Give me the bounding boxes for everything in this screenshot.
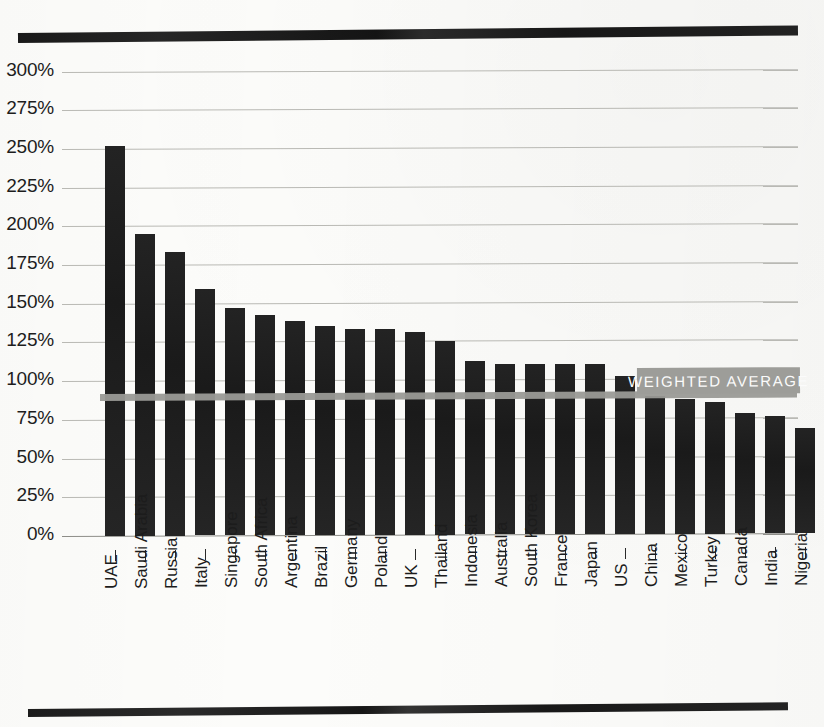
gridline-225	[62, 185, 798, 189]
bar-uk[interactable]	[405, 332, 425, 535]
y-tick-label-175: 175%	[6, 252, 54, 274]
bar-brazil[interactable]	[315, 326, 335, 535]
x-label-singapore: Singapore	[222, 512, 242, 589]
gridline-250	[62, 146, 798, 150]
y-tick-label-125: 125%	[6, 329, 54, 351]
y-axis-tick-labels: 0%25%50%75%100%125%150%175%200%225%250%2…	[0, 0, 58, 727]
gridline-300	[62, 69, 798, 73]
x-label-australia: Australia	[492, 522, 512, 587]
bar-indonesia[interactable]	[465, 361, 485, 534]
bar-canada[interactable]	[735, 413, 755, 534]
x-label-italy: Italy	[192, 558, 212, 589]
bar-chart-figure: 0%25%50%75%100%125%150%175%200%225%250%2…	[0, 0, 824, 727]
bar-nigeria[interactable]	[795, 428, 815, 533]
x-label-argentina: Argentina	[282, 516, 302, 588]
x-label-brazil: Brazil	[312, 546, 332, 588]
x-label-indonesia: Indonesia	[462, 515, 482, 588]
y-tick-label-75: 75%	[17, 407, 54, 429]
x-label-turkey: Turkey	[702, 536, 722, 587]
bar-singapore[interactable]	[225, 308, 245, 536]
x-label-mexico: Mexico	[672, 533, 692, 586]
x-label-nigeria: Nigeria	[792, 533, 812, 586]
bar-italy[interactable]	[195, 289, 215, 535]
x-label-us: US	[612, 563, 632, 586]
x-label-south-korea: South Korea	[522, 494, 542, 587]
x-label-uk: UK	[402, 564, 422, 587]
bar-china[interactable]	[645, 396, 665, 534]
bar-japan[interactable]	[585, 364, 605, 534]
bar-saudi-arabia[interactable]	[135, 234, 155, 536]
bar-uae[interactable]	[105, 146, 125, 536]
gridline-200	[62, 224, 798, 228]
x-label-france: France	[552, 535, 572, 587]
bar-australia[interactable]	[495, 364, 515, 534]
x-label-india: India	[762, 550, 782, 586]
y-tick-label-225: 225%	[6, 175, 54, 197]
y-tick-label-275: 275%	[6, 97, 54, 119]
bar-mexico[interactable]	[675, 399, 695, 534]
y-tick-label-150: 150%	[6, 291, 54, 313]
x-label-south-africa: South Africa	[252, 498, 272, 588]
bar-thailand[interactable]	[435, 341, 455, 535]
x-label-saudi-arabia: Saudi Arabia	[132, 494, 152, 589]
x-tick-uk	[415, 549, 416, 560]
x-tick-us	[625, 548, 626, 559]
y-tick-label-100: 100%	[6, 368, 54, 390]
weighted-average-badge: WEIGHTED AVERAGE	[637, 368, 800, 395]
x-label-uae: UAE	[102, 554, 122, 589]
y-tick-label-200: 200%	[6, 213, 54, 235]
y-tick-label-25: 25%	[17, 484, 54, 506]
x-label-canada: Canada	[732, 527, 752, 586]
bar-germany[interactable]	[345, 329, 365, 535]
y-tick-label-250: 250%	[6, 136, 54, 158]
bar-us[interactable]	[615, 376, 635, 534]
y-tick-label-50: 50%	[17, 446, 54, 468]
bar-turkey[interactable]	[705, 402, 725, 534]
y-tick-label-300: 300%	[6, 59, 54, 81]
bar-india[interactable]	[765, 416, 785, 534]
bar-poland[interactable]	[375, 329, 395, 535]
x-label-germany: Germany	[342, 519, 362, 588]
x-label-russia: Russia	[162, 537, 182, 588]
gridline-275	[62, 107, 798, 111]
bar-france[interactable]	[555, 364, 575, 534]
x-label-poland: Poland	[372, 535, 392, 587]
x-label-japan: Japan	[582, 541, 602, 587]
x-label-china: China	[642, 543, 662, 587]
x-label-thailand: Thailand	[432, 523, 452, 587]
weighted-average-label: WEIGHTED AVERAGE	[628, 372, 809, 390]
bar-argentina[interactable]	[285, 321, 305, 535]
y-tick-label-0: 0%	[27, 523, 54, 545]
